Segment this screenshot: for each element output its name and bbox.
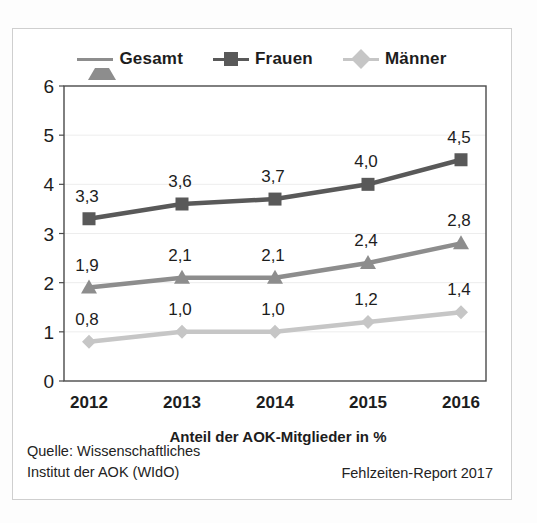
y-axis-tick-label: 5 — [43, 125, 54, 146]
data-point-label: 3,7 — [261, 167, 285, 186]
chart-plot-area: 012345620122013201420152016Anteil der AO… — [13, 29, 513, 501]
x-axis-tick-label: 2016 — [442, 393, 480, 412]
square-marker-icon — [455, 153, 468, 166]
y-axis-tick-label: 2 — [43, 273, 54, 294]
y-axis-tick-label: 6 — [43, 76, 54, 97]
y-axis-tick-label: 3 — [43, 224, 54, 245]
source-note: Quelle: Wissenschaftliches Institut der … — [27, 441, 200, 483]
x-axis-tick-label: 2015 — [349, 393, 387, 412]
chart-footer: Quelle: Wissenschaftliches Institut der … — [27, 441, 497, 489]
data-point-label: 2,1 — [168, 246, 192, 265]
data-point-label: 4,5 — [447, 128, 471, 147]
line-chart-svg: 012345620122013201420152016Anteil der AO… — [13, 29, 513, 501]
x-axis-tick-label: 2013 — [163, 393, 201, 412]
square-marker-icon — [83, 212, 96, 225]
data-point-label: 1,0 — [168, 300, 192, 319]
diamond-marker-icon — [361, 315, 375, 329]
x-axis-tick-label: 2014 — [256, 393, 294, 412]
data-point-label: 0,8 — [75, 310, 99, 329]
data-point-label: 2,8 — [447, 211, 471, 230]
data-point-label: 2,1 — [261, 246, 285, 265]
report-note: Fehlzeiten-Report 2017 — [341, 463, 493, 484]
diamond-marker-icon — [82, 335, 96, 349]
data-point-label: 1,4 — [447, 280, 471, 299]
diamond-marker-icon — [175, 325, 189, 339]
diamond-marker-icon — [454, 305, 468, 319]
diamond-marker-icon — [268, 325, 282, 339]
y-axis-tick-label: 1 — [43, 322, 54, 343]
x-axis-tick-label: 2012 — [70, 393, 108, 412]
data-point-label: 3,3 — [75, 187, 99, 206]
square-marker-icon — [362, 178, 375, 191]
chart-figure-frame: Gesamt Frauen Männer 0123456201220132014… — [12, 28, 512, 500]
y-axis-tick-label: 0 — [43, 371, 54, 392]
square-marker-icon — [269, 193, 282, 206]
square-marker-icon — [176, 198, 189, 211]
data-point-label: 2,4 — [354, 231, 378, 250]
data-point-label: 3,6 — [168, 172, 192, 191]
data-point-label: 4,0 — [354, 152, 378, 171]
data-point-label: 1,0 — [261, 300, 285, 319]
data-point-label: 1,2 — [354, 290, 378, 309]
y-axis-tick-label: 4 — [43, 174, 54, 195]
data-point-label: 1,9 — [75, 256, 99, 275]
